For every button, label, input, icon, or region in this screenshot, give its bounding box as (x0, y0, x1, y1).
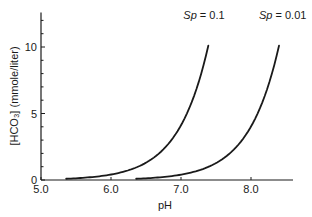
series-label-2: Sp = 0.01 (259, 9, 306, 21)
y-tick-label: 5 (31, 108, 37, 120)
x-tick-label: 7.0 (173, 183, 188, 195)
y-tick-label: 0 (31, 174, 37, 186)
chart: 5.06.07.08.00510 Sp = 0.1Sp = 0.01 pH [H… (0, 0, 312, 217)
y-tick-label: 10 (25, 41, 37, 53)
series-line-2 (136, 46, 279, 179)
y-axis-title: [HCO₃] (mmole/liter) (8, 46, 20, 145)
series-lines (66, 46, 279, 179)
x-axis-title: pH (158, 199, 172, 211)
series-line-1 (66, 46, 208, 179)
series-labels: Sp = 0.1Sp = 0.01 (183, 9, 306, 21)
axes: 5.06.07.08.00510 (25, 12, 293, 195)
series-label-1: Sp = 0.1 (183, 9, 224, 21)
x-tick-label: 8.0 (243, 183, 258, 195)
x-tick-label: 6.0 (103, 183, 118, 195)
